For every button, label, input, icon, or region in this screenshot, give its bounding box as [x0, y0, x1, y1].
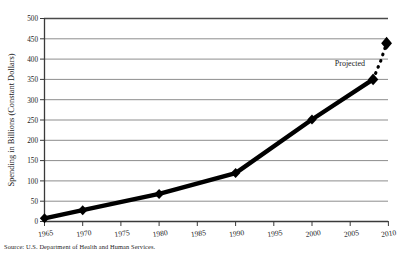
x-tick-label: 1975	[114, 228, 130, 239]
x-tick-label: 1985	[190, 228, 206, 239]
y-tick-label: 200	[27, 137, 38, 145]
x-tick-label: 1995	[267, 228, 283, 239]
y-axis-title: Spending in Billions (Constant Dollars)	[7, 53, 16, 186]
x-tick-label: 1965	[38, 228, 54, 239]
x-tick-label: 1970	[76, 228, 92, 239]
projected-annotation: Projected	[335, 59, 365, 68]
y-tick-label: 150	[27, 157, 38, 165]
y-tick-label: 350	[27, 76, 38, 84]
y-tick-label: 0	[34, 218, 38, 226]
spending-line-chart: 500 450 400 350 300 250 200 150 100 50 0…	[0, 0, 401, 259]
y-tick-label: 300	[27, 97, 38, 105]
y-tick-label: 450	[27, 36, 38, 44]
y-tick-marks	[40, 19, 44, 222]
y-tick-label: 250	[27, 117, 38, 125]
source-note: Source: U.S. Department of Health and Hu…	[4, 243, 155, 250]
x-tick-label: 2005	[343, 228, 359, 239]
y-tick-label: 100	[27, 178, 38, 186]
chart-figure: 500 450 400 350 300 250 200 150 100 50 0…	[0, 0, 401, 259]
y-tick-labels: 500 450 400 350 300 250 200 150 100 50 0	[27, 15, 38, 226]
x-tick-label: 2000	[305, 228, 321, 239]
y-tick-label: 400	[27, 56, 38, 64]
y-tick-label: 50	[31, 198, 39, 206]
y-tick-label: 500	[27, 15, 38, 23]
x-tick-label: 2010	[381, 228, 397, 239]
x-tick-label: 1990	[229, 228, 245, 239]
x-tick-labels: 1965 1970 1975 1980 1985 1990 1995 2000 …	[38, 228, 397, 239]
x-tick-label: 1980	[152, 228, 168, 239]
